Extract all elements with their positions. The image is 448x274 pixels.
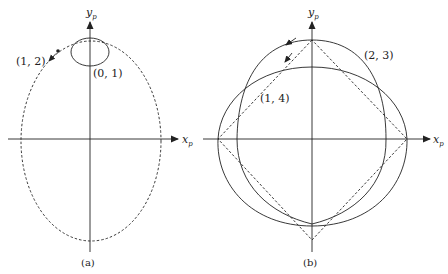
y-axis-label-a: yp	[86, 7, 97, 21]
direction-arrow-a	[49, 54, 56, 62]
annotation-2-3: (2, 3)	[364, 50, 394, 61]
x-axis-label-b: xp	[433, 134, 444, 148]
diagram-canvas	[0, 0, 448, 274]
annotation-0-1: (0, 1)	[93, 68, 123, 79]
x-axis-label-a: xp	[182, 134, 193, 148]
y-axis-label-b: yp	[308, 7, 319, 21]
curve-1-4	[218, 67, 407, 226]
dashed-ellipse-1-2	[21, 41, 161, 241]
dashed-diamond	[218, 40, 407, 240]
x-label-sub: p	[188, 140, 192, 148]
annotation-1-4: (1, 4)	[260, 93, 290, 104]
caption-b: (b)	[303, 258, 317, 268]
curve-2-3	[237, 40, 386, 224]
direction-arrow-inner	[285, 53, 292, 62]
y-label-sub: p	[314, 13, 318, 21]
panel-b	[203, 22, 430, 252]
start-point-dot	[56, 49, 60, 53]
caption-a: (a)	[81, 258, 95, 268]
x-label-sub: p	[439, 140, 443, 148]
annotation-1-2: (1, 2)	[16, 56, 46, 67]
y-label-sub: p	[92, 13, 96, 21]
